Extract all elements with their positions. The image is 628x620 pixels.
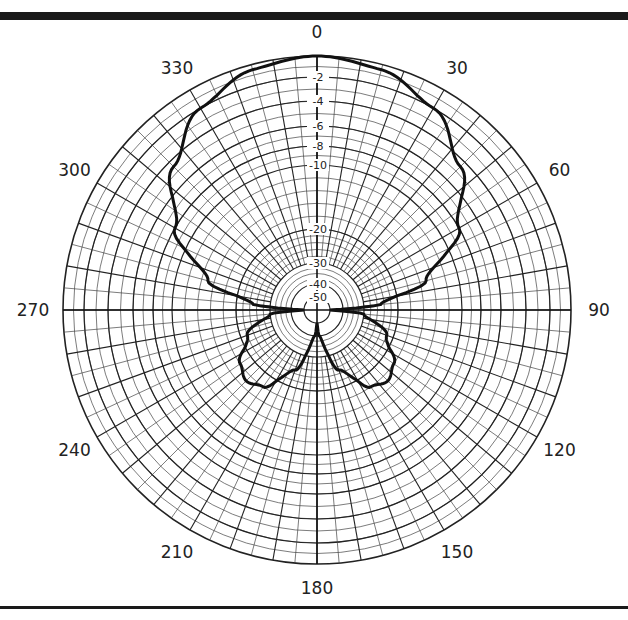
angle-tick-label: 270	[17, 300, 49, 320]
angle-tick-label: 150	[441, 542, 473, 562]
angle-tick-label: 180	[301, 578, 333, 598]
angle-tick-label: 300	[58, 160, 90, 180]
radial-tick-label: -10	[309, 159, 327, 172]
radial-tick-label: -40	[309, 278, 327, 291]
angle-tick-label: 0	[312, 22, 323, 42]
radial-tick-label: -8	[313, 140, 324, 153]
radial-tick-label: -50	[309, 291, 327, 304]
radial-tick-label: -30	[309, 257, 327, 270]
radial-tick-label: -2	[313, 71, 324, 84]
radial-tick-label: -6	[313, 120, 324, 133]
angle-tick-label: 210	[161, 542, 193, 562]
angle-tick-label: 330	[161, 58, 193, 78]
angle-tick-label: 30	[446, 58, 468, 78]
polar-chart: -2-4-6-8-10-20-30-40-5003060901201501802…	[0, 0, 628, 620]
angle-tick-label: 60	[549, 160, 571, 180]
angle-tick-label: 90	[588, 300, 610, 320]
radial-tick-label: -20	[309, 223, 327, 236]
angle-tick-label: 120	[543, 440, 575, 460]
bottom-rule	[0, 606, 628, 609]
angle-tick-label: 240	[58, 440, 90, 460]
radial-tick-label: -4	[313, 95, 324, 108]
